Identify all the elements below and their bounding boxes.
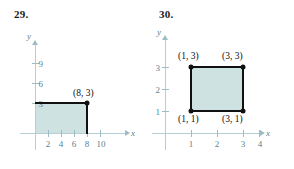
x-tick-2-30 [217,130,218,137]
boundary-bottom-30 [190,110,244,112]
boundary-left-30 [190,66,192,112]
y-tick-label-2-30: 2 [149,86,160,95]
point-label-1-1: (1, 1) [178,115,199,125]
x-tick-6-29 [74,130,75,137]
y-axis-30 [165,40,166,150]
y-axis-arrow-icon-29 [32,40,38,45]
shaded-region-30 [191,67,243,111]
figure-panel-29: 29. x y 2 4 6 8 10 [0,0,147,169]
point-marker-3-3 [241,65,246,70]
x-tick-1-30 [191,130,192,137]
y-tick-label-6-29: 6 [29,80,43,89]
plot-area-30: x y 1 2 3 4 1 2 3 [147,0,294,169]
x-axis-arrow-icon-29 [125,130,130,136]
x-tick-label-3-30: 3 [241,140,246,149]
y-tick-label-9-29: 9 [29,60,43,69]
x-tick-label-6-29: 6 [72,140,77,149]
figure-panel-30: 30. x y 1 2 3 4 1 [147,0,294,169]
point-label-1-3: (1, 3) [178,52,199,62]
y-tick-1-30 [162,111,169,112]
point-label-3-3: (3, 3) [222,52,243,62]
x-tick-10-29 [100,130,101,137]
x-tick-label-8-29: 8 [85,140,90,149]
x-tick-label-1-30: 1 [189,140,194,149]
x-tick-label-4-29: 4 [59,140,64,149]
y-axis-label-29: y [27,32,31,41]
x-axis-label-30: x [266,129,270,138]
point-marker-1-3 [189,65,194,70]
point-marker-3-1 [241,109,246,114]
point-label-3-1: (3, 1) [222,115,243,125]
y-axis-arrow-icon-30 [162,35,168,40]
boundary-top-29 [35,102,88,104]
x-tick-3-30 [243,130,244,137]
point-label-8-3: (8, 3) [73,89,94,99]
y-tick-2-30 [162,89,169,90]
x-tick-label-2-29: 2 [46,140,51,149]
x-tick-2-29 [48,130,49,137]
y-tick-label-1-30: 1 [149,108,160,117]
point-marker-8-3 [85,101,90,106]
y-tick-label-3-30: 3 [149,64,160,73]
x-tick-4-29 [61,130,62,137]
x-tick-label-10-29: 10 [97,140,106,149]
figure-page: 29. x y 2 4 6 8 10 [0,0,294,169]
x-tick-4-30 [259,130,260,137]
point-marker-1-1 [189,109,194,114]
y-axis-label-30: y [157,28,161,37]
x-tick-label-2-30: 2 [215,140,220,149]
y-tick-3-30 [162,67,169,68]
x-axis-arrow-icon-30 [260,130,265,136]
boundary-right-29 [86,102,88,134]
boundary-top-30 [190,66,244,68]
y-tick-label-3-29: 3 [29,100,43,109]
boundary-right-30 [242,66,244,112]
plot-area-29: x y 2 4 6 8 10 3 6 9 (8, 3) [0,0,147,169]
x-tick-label-4-30: 4 [258,140,263,149]
x-axis-label-29: x [131,129,135,138]
